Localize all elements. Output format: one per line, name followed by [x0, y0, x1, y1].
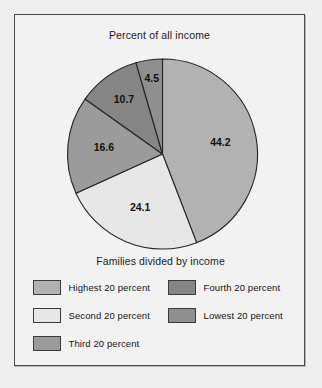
pie-slice — [85, 63, 163, 154]
legend-swatch — [33, 280, 61, 295]
legend-item-label: Fourth 20 percent — [204, 282, 281, 293]
legend-item-label: Lowest 20 percent — [204, 310, 283, 321]
legend-item[interactable]: Second 20 percent — [33, 307, 183, 324]
legend-item[interactable]: Fourth 20 percent — [168, 279, 298, 296]
legend-swatch — [168, 308, 196, 323]
legend-swatch — [168, 280, 196, 295]
legend-title: Families divided by income — [15, 255, 306, 267]
figure-frame: Percent of all income 44.224.116.610.74.… — [14, 14, 305, 366]
legend: Families divided by income Highest 20 pe… — [15, 255, 306, 361]
legend-item-label: Highest 20 percent — [69, 282, 151, 293]
legend-swatch — [33, 336, 61, 351]
legend-swatch — [33, 308, 61, 323]
legend-item[interactable]: Lowest 20 percent — [168, 307, 298, 324]
pie-slice-labels: 44.224.116.610.74.5 — [94, 72, 231, 214]
pie-slice — [136, 59, 162, 154]
pie-slice-label: 4.5 — [144, 72, 159, 84]
legend-item[interactable]: Highest 20 percent — [33, 279, 183, 296]
legend-item[interactable]: Third 20 percent — [33, 335, 183, 352]
legend-item-label: Second 20 percent — [69, 310, 150, 321]
page-title: Percent of all income — [15, 29, 304, 41]
pie-slice-label: 44.2 — [210, 136, 231, 148]
pie-slice — [163, 59, 258, 243]
pie-slices — [68, 59, 258, 249]
legend-items: Highest 20 percentSecond 20 percentThird… — [27, 279, 295, 361]
pie-slice-label: 10.7 — [114, 93, 135, 105]
legend-item-label: Third 20 percent — [69, 338, 140, 349]
pie-slice — [68, 99, 163, 193]
pie-slice — [76, 154, 197, 249]
pie-slice-label: 16.6 — [94, 141, 115, 153]
pie-slice-label: 24.1 — [130, 201, 151, 213]
